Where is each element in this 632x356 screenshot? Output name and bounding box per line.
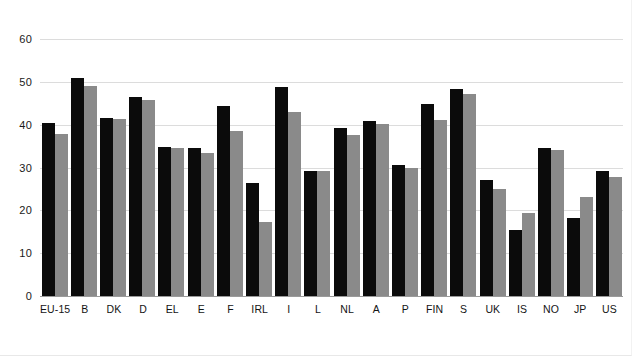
bar-group — [478, 39, 507, 296]
bar — [434, 120, 447, 296]
x-axis-category-label: A — [362, 303, 391, 315]
bar-group — [507, 39, 536, 296]
x-axis-category-label: UK — [478, 303, 507, 315]
bar-chart: 0102030405060 EU-15BDKDELEFIRLILNLAPFINS… — [0, 0, 632, 356]
bar-group — [332, 39, 361, 296]
bar — [246, 183, 259, 297]
bar — [493, 189, 506, 297]
bar — [596, 171, 609, 296]
bar-group — [536, 39, 565, 296]
bar — [450, 89, 463, 296]
bar-group — [390, 39, 419, 296]
y-axis-tick-label: 60 — [0, 33, 32, 45]
x-axis-category-label: IRL — [245, 303, 274, 315]
bar — [142, 100, 155, 296]
bar — [405, 168, 418, 297]
x-axis-category-label: EL — [158, 303, 187, 315]
bar-group — [157, 39, 186, 296]
bar — [275, 87, 288, 296]
bar — [580, 197, 593, 296]
bar-group — [98, 39, 127, 296]
bar-group — [40, 39, 69, 296]
x-axis-category-label: JP — [566, 303, 595, 315]
bar-group — [303, 39, 332, 296]
x-axis-category-labels: EU-15BDKDELEFIRLILNLAPFINSUKISNOJPUS — [40, 303, 624, 315]
x-axis-category-label: US — [595, 303, 624, 315]
bar — [113, 119, 126, 296]
x-axis-category-label: F — [216, 303, 245, 315]
bar — [259, 222, 272, 296]
bar — [100, 118, 113, 296]
bar — [509, 230, 522, 296]
x-axis-category-label: D — [129, 303, 158, 315]
y-axis-tick-label: 10 — [0, 247, 32, 259]
x-axis-category-label: IS — [507, 303, 536, 315]
x-axis-category-label: I — [274, 303, 303, 315]
bar — [304, 171, 317, 296]
bar — [171, 148, 184, 296]
bar — [288, 112, 301, 296]
bar-group — [420, 39, 449, 296]
bar — [129, 97, 142, 296]
bar — [538, 148, 551, 296]
bar — [230, 131, 243, 296]
bar-group — [215, 39, 244, 296]
bar — [188, 148, 201, 296]
x-axis-category-label: E — [187, 303, 216, 315]
bar-group — [244, 39, 273, 296]
x-axis-category-label: FIN — [420, 303, 449, 315]
bar — [463, 94, 476, 296]
bar — [392, 165, 405, 296]
x-axis-category-label: L — [303, 303, 332, 315]
x-axis-category-label: B — [70, 303, 99, 315]
bar-group — [274, 39, 303, 296]
y-axis-tick-label: 0 — [0, 290, 32, 302]
bar — [201, 153, 214, 296]
bar-group — [566, 39, 595, 296]
bar-group — [128, 39, 157, 296]
bar — [158, 147, 171, 296]
bar-group — [186, 39, 215, 296]
bar-group — [69, 39, 98, 296]
y-axis-tick-label: 30 — [0, 162, 32, 174]
x-axis-category-label: NL — [333, 303, 362, 315]
bar — [567, 218, 580, 296]
bar — [84, 86, 97, 296]
bar — [363, 121, 376, 296]
bar-group — [449, 39, 478, 296]
x-axis-category-label: NO — [537, 303, 566, 315]
x-axis-category-label: P — [391, 303, 420, 315]
bar — [551, 150, 564, 296]
bar-group — [361, 39, 390, 296]
bar — [42, 123, 55, 296]
bar — [376, 124, 389, 296]
bar — [347, 135, 360, 296]
bar — [317, 171, 330, 296]
bar-group — [595, 39, 624, 296]
bar — [71, 78, 84, 296]
bar — [480, 180, 493, 296]
bar — [421, 104, 434, 296]
y-axis-tick-label: 50 — [0, 76, 32, 88]
bar — [609, 177, 622, 296]
y-axis-tick-label: 40 — [0, 119, 32, 131]
axis-baseline — [40, 296, 623, 297]
bar — [522, 213, 535, 296]
bar-groups — [40, 39, 624, 296]
bar — [55, 134, 68, 296]
bar — [217, 106, 230, 296]
x-axis-category-label: S — [449, 303, 478, 315]
x-axis-category-label: EU-15 — [40, 303, 70, 315]
y-axis-tick-label: 20 — [0, 204, 32, 216]
chart-title — [0, 0, 1, 1]
x-axis-category-label: DK — [99, 303, 128, 315]
bar — [334, 128, 347, 296]
